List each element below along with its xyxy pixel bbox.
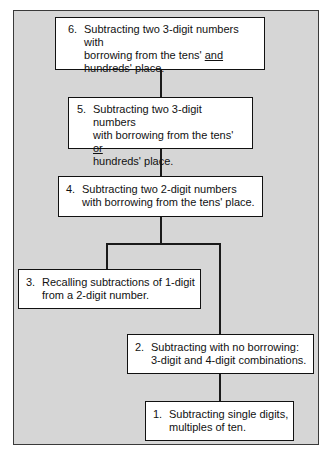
node-6: 6. Subtracting two 3-digit numbers with … <box>55 17 265 70</box>
node-2-text: Subtracting with no borrowing: 3-digit a… <box>151 341 309 367</box>
node-2-line2: 3-digit and 4-digit combinations. <box>151 354 306 366</box>
node-3-line1: Recalling subtractions of 1-digit <box>42 276 195 288</box>
node-2-line1: Subtracting with no borrowing: <box>151 341 299 353</box>
node-4-line2: with borrowing from the tens' place. <box>82 196 255 208</box>
node-1-number: 1. <box>153 408 169 421</box>
node-6-text: Subtracting two 3-digit numbers with bor… <box>84 23 258 75</box>
connector-2-1 <box>219 373 221 401</box>
node-4-line1: Subtracting two 2-digit numbers <box>82 183 237 195</box>
connector-4-branch <box>160 216 162 244</box>
node-5-line1: Subtracting two 3-digit numbers <box>93 103 202 128</box>
node-6-line2: borrowing from the tens' <box>84 49 205 61</box>
node-3-line2: from a 2-digit number. <box>42 289 149 301</box>
node-3-text: Recalling subtractions of 1-digit from a… <box>42 276 196 302</box>
node-5-text: Subtracting two 3-digit numbers with bor… <box>93 103 246 168</box>
node-5: 5. Subtracting two 3-digit numbers with … <box>68 97 253 149</box>
connector-branch-horizontal <box>106 243 221 245</box>
node-1-line2: multiples of ten. <box>169 421 246 433</box>
node-5-line3: hundreds' place. <box>93 155 173 167</box>
node-5-emphasis: or <box>93 142 103 154</box>
node-4-text: Subtracting two 2-digit numbers with bor… <box>82 183 258 209</box>
node-1: 1. Subtracting single digits, multiples … <box>145 401 294 441</box>
node-6-line3: hundreds' place. <box>84 62 164 74</box>
node-5-number: 5. <box>77 103 93 116</box>
node-4-number: 4. <box>66 183 82 196</box>
node-6-number: 6. <box>68 23 84 36</box>
node-6-line1: Subtracting two 3-digit numbers with <box>84 23 239 48</box>
node-1-text: Subtracting single digits, multiples of … <box>169 408 289 434</box>
node-6-emphasis: and <box>205 49 223 61</box>
node-3: 3. Recalling subtractions of 1-digit fro… <box>18 269 201 309</box>
connector-branch-2 <box>219 243 221 334</box>
node-2: 2. Subtracting with no borrowing: 3-digi… <box>127 334 314 374</box>
node-1-line1: Subtracting single digits, <box>169 408 288 420</box>
node-4: 4. Subtracting two 2-digit numbers with … <box>58 176 263 217</box>
connector-branch-3 <box>106 243 108 269</box>
node-2-number: 2. <box>135 341 151 354</box>
node-3-number: 3. <box>26 276 42 289</box>
diagram-frame <box>13 10 319 445</box>
node-5-line2: with borrowing from the tens' <box>93 129 233 141</box>
